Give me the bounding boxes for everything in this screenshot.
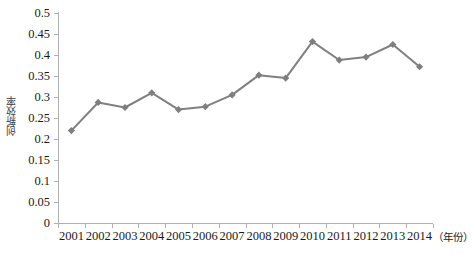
y-tick-mark <box>54 160 58 161</box>
y-axis-title-label: 创新效率 <box>4 96 19 136</box>
data-series-svg <box>58 13 433 223</box>
y-tick-mark <box>54 97 58 98</box>
x-tick-mark <box>299 224 300 228</box>
x-tick-mark <box>165 224 166 228</box>
y-tick-label: 0.15 <box>28 153 50 168</box>
x-tick-label: 2012 <box>354 229 379 244</box>
plot-area <box>58 13 433 223</box>
x-tick-label: 2008 <box>246 229 271 244</box>
x-tick-mark <box>379 224 380 228</box>
x-axis-title: （年份） <box>433 229 472 244</box>
x-tick-mark <box>219 224 220 228</box>
x-tick-mark <box>58 224 59 228</box>
x-axis-tick-labels: 2001200220032004200520062007200820092010… <box>58 229 433 249</box>
x-tick-label: 2007 <box>220 229 245 244</box>
y-tick-mark <box>54 55 58 56</box>
x-tick-mark <box>246 224 247 228</box>
x-tick-mark <box>138 224 139 228</box>
line-chart: 创新效率 00.050.10.150.20.250.30.350.40.450.… <box>0 0 472 257</box>
x-tick-label: 2004 <box>139 229 164 244</box>
x-tick-label: 2013 <box>380 229 405 244</box>
x-tick-mark <box>433 224 434 228</box>
y-axis-tick-labels: 00.050.10.150.20.250.30.350.40.450.5 <box>22 13 54 223</box>
y-tick-label: 0.4 <box>34 48 50 63</box>
x-tick-mark <box>326 224 327 228</box>
x-tick-label: 2011 <box>327 229 352 244</box>
y-tick-mark <box>54 181 58 182</box>
x-tick-label: 2014 <box>407 229 432 244</box>
x-tick-label: 2010 <box>300 229 325 244</box>
y-tick-label: 0.1 <box>34 174 50 189</box>
y-tick-label: 0.35 <box>28 69 50 84</box>
y-tick-mark <box>54 139 58 140</box>
y-tick-label: 0 <box>44 216 50 231</box>
x-tick-label: 2005 <box>166 229 191 244</box>
y-tick-mark <box>54 202 58 203</box>
x-tick-mark <box>192 224 193 228</box>
x-tick-label: 2001 <box>59 229 84 244</box>
data-point-marker <box>202 103 209 110</box>
y-tick-mark <box>54 13 58 14</box>
x-tick-mark <box>112 224 113 228</box>
x-tick-mark <box>85 224 86 228</box>
y-tick-label: 0.5 <box>34 6 50 21</box>
y-tick-label: 0.25 <box>28 111 50 126</box>
y-tick-label: 0.45 <box>28 27 50 42</box>
data-point-marker <box>362 54 369 61</box>
x-tick-label: 2009 <box>273 229 298 244</box>
x-tick-mark <box>272 224 273 228</box>
y-tick-label: 0.3 <box>34 90 50 105</box>
x-tick-label: 2002 <box>86 229 111 244</box>
x-tick-label: 2003 <box>112 229 137 244</box>
y-tick-label: 0.2 <box>34 132 50 147</box>
x-tick-label: 2006 <box>193 229 218 244</box>
y-axis-title: 创新效率 <box>0 0 22 232</box>
y-tick-mark <box>54 118 58 119</box>
y-tick-label: 0.05 <box>28 195 50 210</box>
y-tick-mark <box>54 76 58 77</box>
x-tick-mark <box>353 224 354 228</box>
x-tick-mark <box>406 224 407 228</box>
y-tick-mark <box>54 34 58 35</box>
